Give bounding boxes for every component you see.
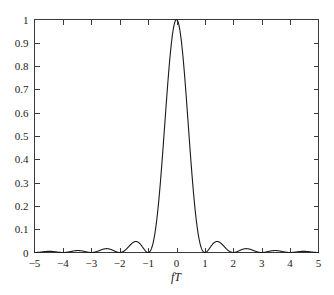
y-tick-label-7: 0.7 — [15, 83, 29, 95]
y-tick-label-2: 0.2 — [15, 200, 29, 212]
y-tick-label-1: 0.1 — [15, 223, 29, 235]
x-tick-label-9: 4 — [287, 257, 293, 269]
x-tick-label-3: −2 — [114, 257, 126, 269]
chart-background — [0, 0, 334, 295]
chart-figure: −5−4−3−2−1012345 00.10.20.30.40.50.60.70… — [0, 0, 334, 295]
y-tick-label-10: 1 — [23, 14, 29, 26]
y-tick-label-5: 0.5 — [15, 130, 29, 142]
x-tick-label-1: −4 — [57, 257, 69, 269]
sinc-squared-plot: −5−4−3−2−1012345 00.10.20.30.40.50.60.70… — [0, 0, 334, 295]
y-tick-label-0: 0 — [23, 247, 29, 259]
x-axis-title: fT — [171, 270, 182, 284]
x-tick-label-4: −1 — [142, 257, 154, 269]
x-tick-label-7: 2 — [231, 257, 237, 269]
x-tick-label-10: 5 — [316, 257, 322, 269]
y-tick-label-8: 0.8 — [15, 60, 29, 72]
y-tick-label-9: 0.9 — [15, 37, 29, 49]
y-tick-label-3: 0.3 — [15, 177, 29, 189]
x-tick-label-8: 3 — [259, 257, 265, 269]
y-tick-label-6: 0.6 — [15, 107, 29, 119]
x-tick-label-0: −5 — [29, 257, 41, 269]
x-tick-label-5: 0 — [174, 257, 180, 269]
x-tick-label-6: 1 — [202, 257, 208, 269]
x-tick-label-2: −3 — [85, 257, 97, 269]
y-tick-label-4: 0.4 — [15, 153, 29, 165]
